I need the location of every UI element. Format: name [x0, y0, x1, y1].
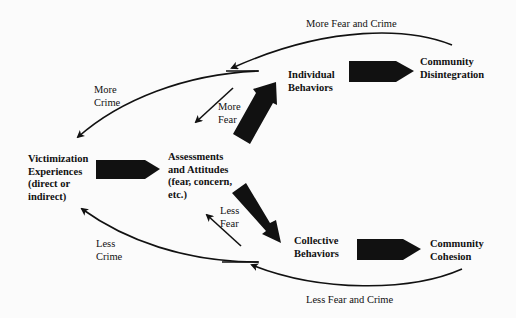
node-line: Community — [430, 238, 484, 251]
node-community-disintegration: Community Disintegration — [420, 56, 484, 81]
node-line: etc.) — [168, 189, 232, 202]
block-arrow-assessments-to-collective — [232, 183, 281, 243]
node-collective-behaviors: Collective Behaviors — [294, 235, 339, 260]
node-community-cohesion: Community Cohesion — [430, 238, 484, 263]
node-line: (fear, concern, — [168, 176, 232, 189]
node-line: Individual — [288, 69, 335, 82]
node-line: Collective — [294, 235, 339, 248]
node-line: and Attitudes — [168, 164, 232, 177]
label-line: Crime — [94, 97, 120, 110]
arc-more-fear-and-crime — [232, 33, 452, 68]
block-arrow-victimization-to-assessments — [96, 160, 160, 179]
label-less-fear: Less Fear — [220, 205, 239, 230]
label-line: More — [218, 101, 241, 114]
node-line: Cohesion — [430, 251, 484, 264]
label-line: Less — [220, 205, 239, 218]
node-line: Victimization — [28, 153, 88, 166]
node-line: (direct or — [28, 178, 88, 191]
block-arrow-individual-to-disintegration — [349, 61, 414, 82]
arc-less-fear-and-crime — [252, 265, 462, 286]
label-line: Crime — [96, 251, 122, 264]
node-line: Experiences — [28, 166, 88, 179]
node-individual-behaviors: Individual Behaviors — [288, 69, 335, 94]
fear-crime-feedback-diagram: Victimization Experiences (direct or ind… — [0, 0, 516, 318]
node-line: Behaviors — [294, 248, 339, 261]
node-assessments-attitudes: Assessments and Attitudes (fear, concern… — [168, 151, 232, 201]
node-line: Community — [420, 56, 484, 69]
label-more-fear: More Fear — [218, 101, 241, 126]
label-line: More — [94, 84, 120, 97]
label-line: Less — [96, 238, 122, 251]
node-victimization-experiences: Victimization Experiences (direct or ind… — [28, 153, 88, 203]
label-more-fear-and-crime: More Fear and Crime — [306, 18, 397, 31]
node-line: indirect) — [28, 191, 88, 204]
label-more-crime: More Crime — [94, 84, 120, 109]
node-line: Disintegration — [420, 69, 484, 82]
label-line: Fear — [218, 114, 241, 127]
block-arrow-collective-to-cohesion — [357, 239, 421, 260]
label-line: Fear — [220, 218, 239, 231]
label-less-crime: Less Crime — [96, 238, 122, 263]
node-line: Assessments — [168, 151, 232, 164]
node-line: Behaviors — [288, 82, 335, 95]
label-less-fear-and-crime: Less Fear and Crime — [306, 294, 393, 307]
